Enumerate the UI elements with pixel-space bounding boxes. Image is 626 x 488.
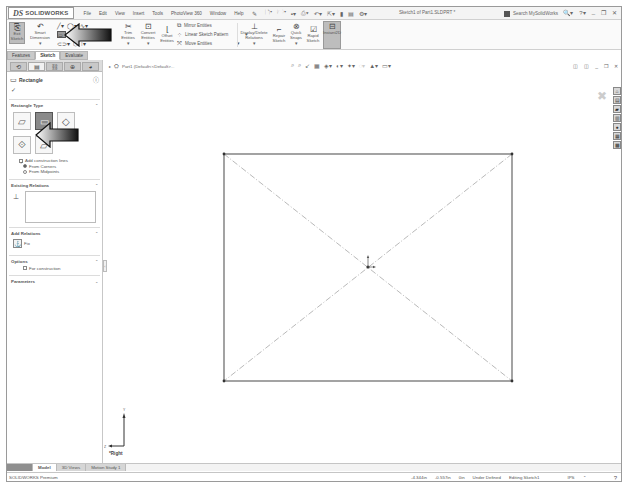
collapse-icon[interactable]: ⌃ [95,183,98,188]
section-header[interactable]: Options ⌃ [9,259,100,264]
fix-icon: ⚓ [13,239,22,248]
instant2d-button[interactable]: ⊟ Instant2D [323,21,341,49]
menu-tools[interactable]: Tools [152,11,163,16]
offset-entities-button[interactable]: ⌊ Offset Entities [158,25,176,43]
save-icon[interactable]: ▪▾ [291,10,296,17]
search-mysolidworks[interactable]: Search MySolidWorks [504,9,569,18]
rectangle-type-section: Rectangle Type ⌃ ▱ ▭ ◇ ⟐ ⏥ ✓ Add constru… [9,99,100,175]
sketch-canvas[interactable]: Y Z [104,51,621,463]
options-icon[interactable]: ⚙▾ [359,10,367,17]
tab-evaluate[interactable]: Evaluate [60,51,88,60]
trim-entities-button[interactable]: ✂ Trim Entities ▾ [119,22,137,46]
tab-scroll-control[interactable] [7,464,33,471]
search-icon[interactable]: 🔍▾ [563,9,573,16]
tab-model[interactable]: Model [33,464,57,471]
model-tabs: Model 3D Views Motion Study 1 [7,463,621,471]
graphics-area[interactable]: ▸ ⛭ Part1 (Default<<Default>... ⌕ ⌕ ↙ ▦ … [104,51,621,463]
document-title: Sketch1 of Part1.SLDPRT * [399,10,455,15]
configuration-manager-tab-icon[interactable]: ⛓ [46,62,63,71]
relations-icon: ⊥ [13,193,19,201]
y-coordinate: -0.557in [435,475,451,480]
collapse-icon[interactable]: ⌃ [95,231,98,236]
unit-system[interactable]: IPS [567,475,574,480]
help-icon[interactable]: ?▾ [579,9,585,16]
repair-sketch-button[interactable]: ⌐ Repair Sketch [271,25,287,43]
from-midpoints-radio[interactable]: From Midpoints [9,169,100,175]
existing-relations-list[interactable] [25,191,96,223]
collapse-icon[interactable]: ⌃ [95,259,98,264]
exit-sketch-button[interactable]: ⎘ Exit Sketch [9,22,25,44]
minimize-icon[interactable]: _ [592,9,595,16]
collapse-icon[interactable]: ⌃ [95,103,98,108]
search-placeholder: Search MySolidWorks [513,11,558,16]
chevron-up-icon[interactable]: ⌃ [583,475,586,480]
print-icon[interactable]: ⎙▾ [301,10,309,17]
tab-motion-study-1[interactable]: Motion Study 1 [86,464,126,471]
property-manager-title: Rectangle [19,77,43,83]
undo-icon[interactable]: ↶▾ [314,10,322,17]
command-manager-tabs: Features Sketch Evaluate [7,51,88,60]
view-orientation-label: *Right [109,451,123,456]
ok-button[interactable]: ✓ [7,84,102,95]
x-coordinate: -4.344in [411,475,427,480]
chevron-down-icon[interactable]: ▾ [147,41,150,46]
for-construction-checkbox[interactable]: For construction [9,266,100,272]
menu-view[interactable]: View [115,11,125,16]
convert-entities-button[interactable]: ⊡ Convert Entities ▾ [138,22,158,46]
menu-insert[interactable]: Insert [133,11,145,16]
options-section: Options ⌃ For construction [9,255,100,272]
solidworks-logo[interactable]: DS SOLIDWORKS [8,7,74,19]
product-name: SOLIDWORKS Premium [9,475,58,480]
quick-access-toolbar: 🗋▾ 🗁▾ ▪▾ ⎙▾ ↶▾ ⇱▾ ▮ ▤ ⚙▾ [265,8,367,18]
callout-arrow-icon [63,23,113,47]
restore-icon[interactable]: ❐ [601,9,606,16]
title-bar: DS SOLIDWORKS File Edit View Insert Tool… [7,7,621,20]
expand-icon[interactable]: ⌄ [95,279,98,284]
corner-rectangle-button[interactable]: ▱ [13,112,31,130]
3-point-center-rectangle-button[interactable]: ⟐ [13,136,31,154]
chevron-down-icon[interactable]: ▾ [127,41,130,46]
tab-sketch[interactable]: Sketch [35,51,60,60]
smart-dimension-button[interactable]: ↶ Smart Dimension ▾ [29,22,51,46]
mirror-entities-button[interactable]: ⧉ Mirror Entities [177,22,212,29]
menu-edit[interactable]: Edit [99,11,107,16]
tab-3d-views[interactable]: 3D Views [57,464,86,471]
tab-features[interactable]: Features [7,51,35,60]
menu-file[interactable]: File [84,11,91,16]
pin-menu-icon[interactable]: ✎ [252,10,257,17]
help-icon[interactable]: ⓘ [93,75,99,84]
open-icon[interactable]: 🗁▾ [277,8,286,18]
display-delete-relations-button[interactable]: ⊥ Display/Delete Relations ▾ [239,22,269,46]
chevron-down-icon[interactable]: ▾ [253,41,256,46]
mirror-icon: ⧉ [177,22,181,29]
rebuild-icon[interactable]: ▮ [340,10,343,17]
menu-help[interactable]: Help [234,11,243,16]
move-entities-button[interactable]: ⤧ Move Entities ▾ [177,40,240,47]
add-relations-section: Add Relations ⌃ ⚓ Fix [9,227,100,251]
display-manager-tab-icon[interactable]: ◕ [82,62,99,71]
editing-mode: Editing Sketch1 [509,475,540,480]
sketch-status[interactable]: Under Defined [473,475,501,480]
divider [237,23,238,47]
close-icon[interactable]: ✕ [612,9,617,16]
new-icon[interactable]: 🗋▾ [265,8,272,18]
section-header[interactable]: Parameters ⌄ [9,279,100,284]
section-header[interactable]: Existing Relations ⌃ [9,183,100,188]
brand-name: SOLIDWORKS [25,10,68,16]
property-manager-tab-icon[interactable]: ▤ [28,62,45,71]
menu-window[interactable]: Window [210,11,226,16]
quick-tips-icon[interactable]: ? [614,475,617,481]
existing-relations-section: Existing Relations ⌃ ⊥ [9,179,100,223]
select-icon[interactable]: ⇱▾ [327,10,335,17]
ds-logo-icon: DS [13,9,23,18]
quick-snaps-button[interactable]: ⊗ Quick Snaps ▾ [289,22,303,46]
svg-text:Z: Z [104,445,107,449]
fix-relation-button[interactable]: ⚓ Fix [9,236,100,251]
chevron-down-icon[interactable]: ▾ [39,41,42,46]
dimxpert-manager-tab-icon[interactable]: ⊕ [64,62,81,71]
feature-manager-tab-icon[interactable]: ⟲ [10,62,27,71]
rapid-sketch-button[interactable]: ☑ Rapid Sketch [305,25,321,43]
chevron-down-icon[interactable]: ▾ [295,41,298,46]
menu-photoview[interactable]: PhotoView 360 [171,11,202,16]
file-properties-icon[interactable]: ▤ [348,10,354,17]
